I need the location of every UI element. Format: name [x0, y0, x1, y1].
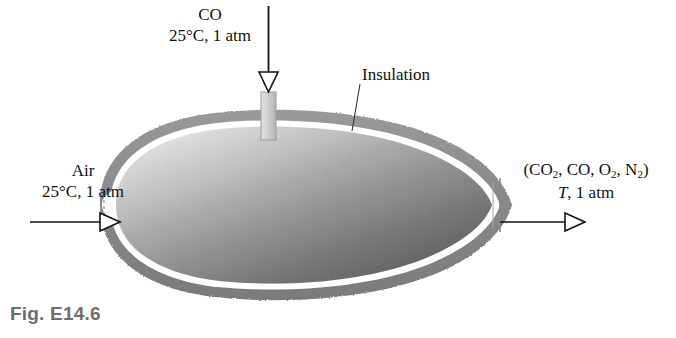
air-inlet-arrow — [30, 213, 120, 231]
exit-stream-arrow — [500, 213, 585, 231]
exit-species-sub-1: 2 — [553, 168, 559, 180]
exit-temperature-symbol: T — [558, 183, 567, 202]
insulation-label: Insulation — [362, 64, 430, 85]
exit-stream-species: (CO2, CO, O2, N2) — [500, 159, 672, 182]
co-inlet-label: CO 25°C, 1 atm — [150, 4, 270, 46]
figure-e14-6: CO 25°C, 1 atm Air 25°C, 1 atm (CO2, CO,… — [0, 0, 676, 338]
air-inlet-label: Air 25°C, 1 atm — [8, 160, 158, 202]
air-inlet-species: Air — [8, 160, 158, 181]
figure-caption: Fig. E14.6 — [10, 303, 101, 325]
co-inlet-pipe — [261, 92, 276, 140]
exit-stream-label: (CO2, CO, O2, N2) T, 1 atm — [500, 159, 672, 203]
exit-species-sub-2: 2 — [611, 168, 617, 180]
exit-species-close: ) — [643, 160, 649, 179]
air-inlet-state: 25°C, 1 atm — [8, 181, 158, 202]
co-inlet-species: CO — [150, 4, 270, 25]
exit-stream-state: T, 1 atm — [500, 182, 672, 203]
exit-species-sub-3: 2 — [637, 168, 643, 180]
exit-species-open: (CO — [523, 160, 552, 179]
exit-species-mid-2: , N — [617, 160, 638, 179]
co-inlet-state: 25°C, 1 atm — [150, 25, 270, 46]
exit-species-mid-1: , CO, O — [558, 160, 611, 179]
exit-state-rest: , 1 atm — [567, 183, 614, 202]
